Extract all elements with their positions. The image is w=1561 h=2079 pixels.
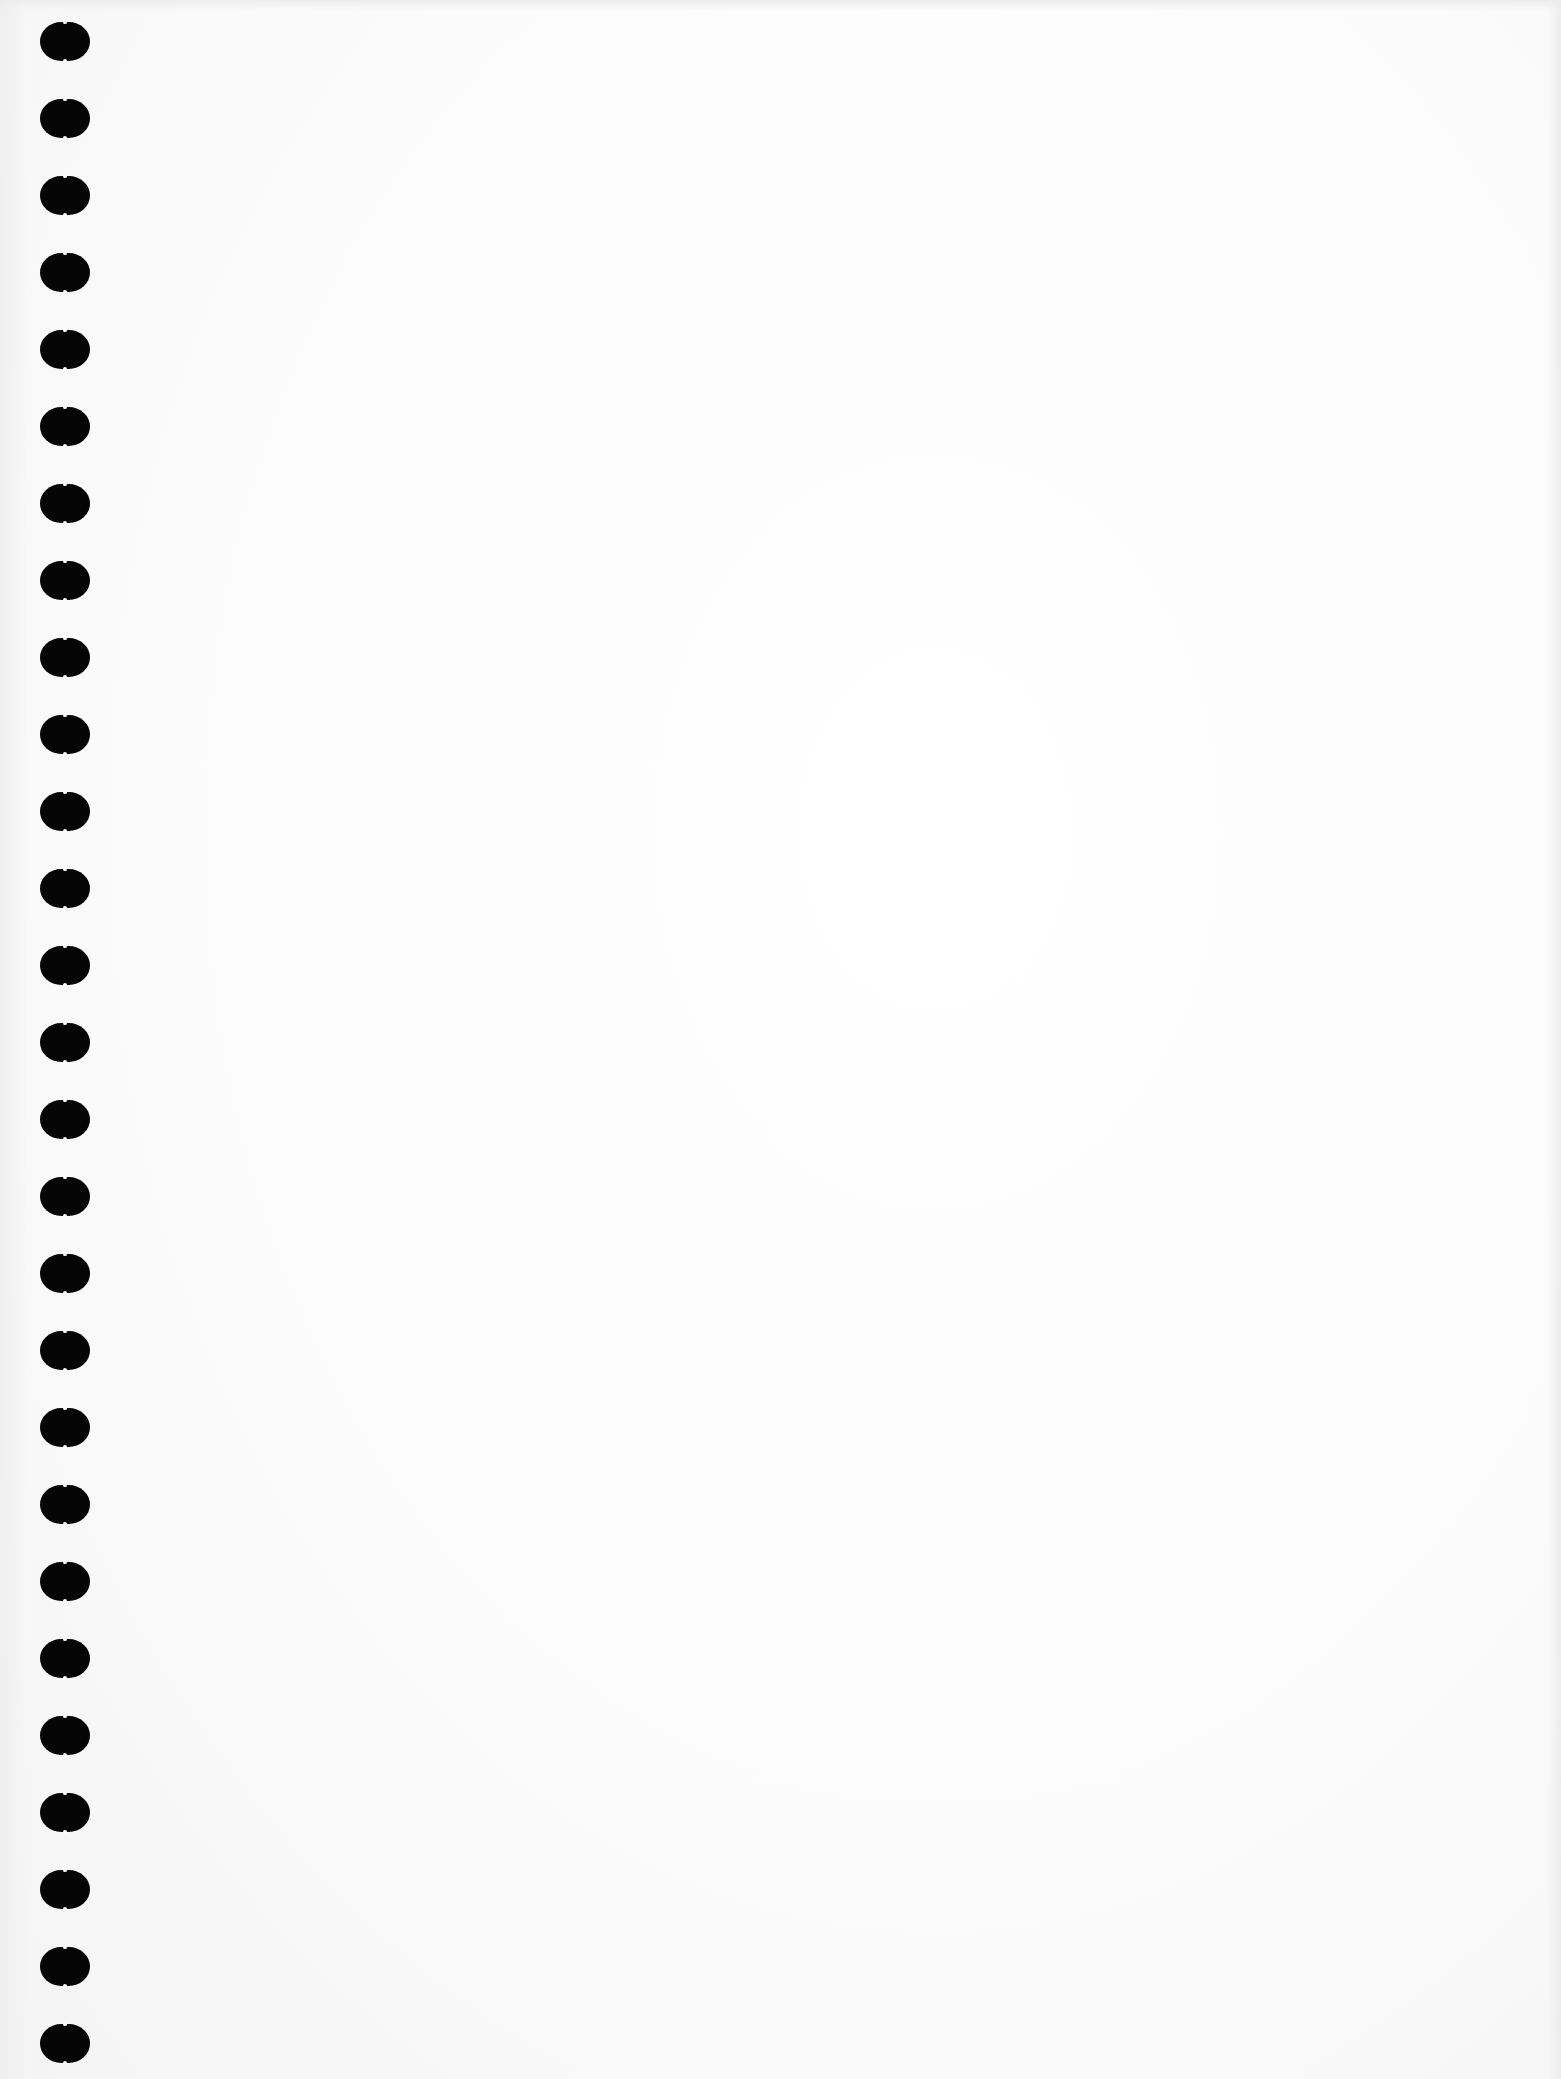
binding-hole-icon <box>40 1793 90 1832</box>
binding-hole-icon <box>40 792 90 831</box>
binding-hole-icon <box>40 1408 90 1447</box>
binding-hole-icon <box>40 1254 90 1293</box>
binding-hole-icon <box>40 1177 90 1216</box>
binding-hole-icon <box>40 176 90 215</box>
binding-hole-icon <box>40 2024 90 2063</box>
binding-hole-icon <box>40 407 90 446</box>
binding-hole-icon <box>40 1947 90 1986</box>
notebook-page <box>0 0 1561 2079</box>
page-top-edge-shadow <box>0 0 1561 10</box>
binding-hole-icon <box>40 330 90 369</box>
binding-hole-icon <box>40 1100 90 1139</box>
blank-writing-area <box>120 20 1531 2059</box>
binding-hole-icon <box>40 1716 90 1755</box>
binding-hole-icon <box>40 253 90 292</box>
binding-hole-icon <box>40 1331 90 1370</box>
binding-hole-icon <box>40 715 90 754</box>
binding-hole-icon <box>40 946 90 985</box>
binding-hole-icon <box>40 1485 90 1524</box>
spiral-binding-holes <box>40 0 92 2079</box>
binding-hole-icon <box>40 1562 90 1601</box>
binding-hole-icon <box>40 561 90 600</box>
binding-hole-icon <box>40 22 90 61</box>
binding-hole-icon <box>40 638 90 677</box>
binding-hole-icon <box>40 1870 90 1909</box>
binding-hole-icon <box>40 99 90 138</box>
binding-hole-icon <box>40 869 90 908</box>
binding-hole-icon <box>40 484 90 523</box>
binding-hole-icon <box>40 1639 90 1678</box>
binding-hole-icon <box>40 1023 90 1062</box>
